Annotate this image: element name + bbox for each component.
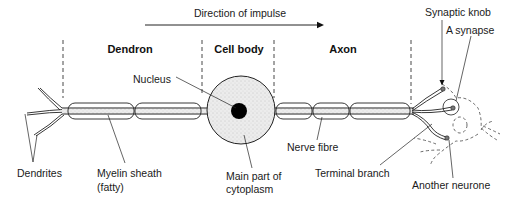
terminal-branches — [412, 87, 459, 140]
synaptic-knob — [441, 87, 445, 91]
label-myelin-fatty: (fatty) — [97, 181, 124, 193]
direction-label: Direction of impulse — [194, 7, 286, 19]
region-axon: Axon — [329, 43, 357, 55]
label-nerve-fibre: Nerve fibre — [287, 141, 339, 153]
cell-body — [207, 76, 275, 144]
region-dendron: Dendron — [107, 43, 153, 55]
label-another-neurone: Another neurone — [412, 179, 490, 191]
axon-fibre — [272, 103, 414, 119]
neuron-diagram: Direction of impulse Dendron Cell body A… — [0, 0, 517, 206]
direction-of-impulse: Direction of impulse — [145, 7, 324, 28]
synaptic-knob — [451, 106, 455, 110]
nucleus — [231, 103, 247, 119]
label-a-synapse: A synapse — [446, 24, 495, 36]
another-neurone-nucleus — [453, 117, 467, 133]
label-dendrites: Dendrites — [17, 167, 62, 179]
label-myelin-sheath: Myelin sheath — [97, 167, 162, 179]
label-cytoplasm-1: Main part of — [226, 170, 282, 182]
label-nucleus: Nucleus — [133, 73, 171, 85]
region-cell-body: Cell body — [214, 43, 264, 55]
leader-nerve-fibre — [317, 117, 322, 140]
synaptic-knob — [445, 136, 449, 140]
label-synaptic-knob: Synaptic knob — [425, 6, 491, 18]
label-cytoplasm-2: cytoplasm — [226, 183, 274, 195]
arrow-head-icon — [317, 22, 324, 28]
leader-terminal-branch — [380, 124, 432, 165]
leader-myelin — [108, 115, 125, 163]
dendron-fibre — [62, 103, 212, 119]
leader-another-neurone — [449, 140, 453, 178]
label-terminal-branch: Terminal branch — [315, 167, 390, 179]
leader-synapse — [456, 36, 471, 101]
